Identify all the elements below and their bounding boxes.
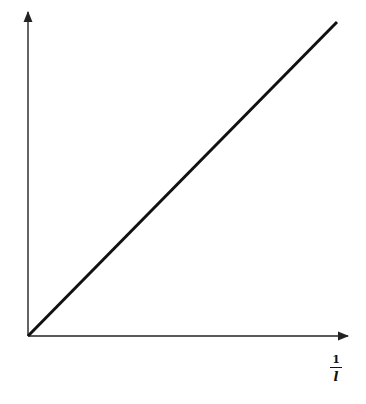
x-label-numerator: 1 (328, 354, 344, 366)
fraction-bar (330, 367, 342, 368)
data-line (28, 22, 337, 336)
chart-canvas (0, 0, 366, 404)
x-axis-label: 1 l (328, 354, 344, 383)
x-label-denominator: l (328, 370, 344, 383)
